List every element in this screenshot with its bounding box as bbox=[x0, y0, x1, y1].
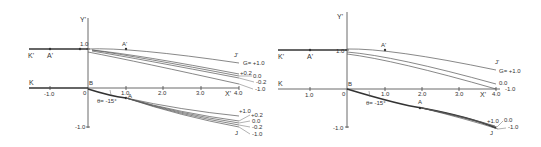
lower-g-label-minus1: -1.0 bbox=[508, 124, 519, 130]
upper-g-label-minus02: -0.2 bbox=[256, 79, 267, 85]
label-a-prime: A' bbox=[47, 52, 53, 59]
label-origin: 0 bbox=[83, 90, 87, 96]
label-a-prime-upper: A' bbox=[122, 41, 127, 47]
y-tick-label-minus-1: -1.0 bbox=[333, 125, 344, 131]
upper-g-label-plus1: G= +1.0 bbox=[499, 68, 521, 74]
x-tick-label-4: 4.0 bbox=[234, 90, 243, 96]
y-tick-label-minus-1: -1.0 bbox=[75, 124, 86, 130]
marker-a-prime-left bbox=[49, 48, 51, 50]
upper-g-label-plus1: G= +1.0 bbox=[243, 60, 265, 66]
x-tick-label-2: 2.0 bbox=[158, 90, 167, 96]
label-k-prime: K' bbox=[28, 52, 34, 59]
upper-leader-lines bbox=[239, 76, 254, 89]
label-a-lower: A bbox=[418, 99, 422, 105]
lower-g-label-plus1: +1.0 bbox=[239, 108, 252, 114]
label-b: B bbox=[348, 81, 352, 87]
x-tick-label-3: 3.0 bbox=[196, 90, 205, 96]
label-b: B bbox=[89, 80, 93, 86]
label-k-prime: K' bbox=[278, 53, 284, 60]
y-tick-label-1: 1.0 bbox=[336, 48, 345, 54]
upper-curve-g-plus1 bbox=[347, 49, 496, 70]
lower-g-label-0: 0.0 bbox=[504, 117, 513, 123]
lower-g-label-minus1: -1.0 bbox=[252, 131, 263, 137]
label-a-prime: A' bbox=[307, 53, 313, 60]
upper-curve-g-minus02 bbox=[92, 51, 239, 78]
x-tick-label-4: 4.0 bbox=[492, 91, 501, 97]
label-j-prime: J' bbox=[234, 52, 238, 58]
lower-g-label-minus02: -0.2 bbox=[252, 124, 263, 130]
x-tick-label-3: 3.0 bbox=[455, 91, 464, 97]
x-tick-label-minus1: -1.0 bbox=[44, 91, 55, 97]
label-a-lower: A bbox=[128, 93, 132, 99]
x-tick-label-left-1: 1.0 bbox=[305, 92, 314, 98]
upper-curve-g-0 bbox=[92, 50, 239, 76]
right-panel: Y' 1.0 -1.0 K B 0 1.0 1.0 2.0 3.0 4.0 X'… bbox=[278, 12, 521, 136]
x-tick-label-2: 2.0 bbox=[418, 91, 427, 97]
jet-trajectory-figure: Y' 1.0 -1.0 K B 0 -1.0 1.0 2.0 3.0 4.0 X… bbox=[0, 0, 541, 147]
upper-g-label-minus1: -1.0 bbox=[505, 86, 516, 92]
label-k: K bbox=[278, 80, 283, 87]
label-j-lower: J bbox=[235, 130, 238, 136]
lower-g-label-plus1: +1.0 bbox=[487, 118, 500, 124]
upper-g-label-plus02: +0.2 bbox=[240, 70, 253, 76]
y-axis-label: Y' bbox=[337, 13, 343, 20]
label-a-prime-upper: A' bbox=[381, 42, 386, 48]
theta-label: θ= -15° bbox=[97, 98, 117, 104]
label-k: K bbox=[29, 79, 34, 86]
theta-label: θ= -15° bbox=[366, 100, 386, 106]
label-j-lower: J bbox=[490, 130, 493, 136]
left-panel: Y' 1.0 -1.0 K B 0 -1.0 1.0 2.0 3.0 4.0 X… bbox=[28, 16, 267, 137]
y-axis-label: Y' bbox=[80, 16, 86, 23]
upper-curve-g-0 bbox=[347, 52, 496, 84]
label-origin: 0 bbox=[342, 91, 346, 97]
marker-upper-near-axis bbox=[79, 48, 81, 50]
x-axis-label: X' bbox=[480, 91, 486, 98]
upper-g-label-minus1: -1.0 bbox=[255, 86, 266, 92]
x-tick-label-1: 1.0 bbox=[381, 91, 390, 97]
upper-curve-g-plus1 bbox=[88, 49, 239, 63]
theta-arc bbox=[110, 90, 111, 95]
y-tick-label-1: 1.0 bbox=[80, 41, 89, 47]
marker-a-lower bbox=[419, 107, 421, 109]
marker-a-prime-left bbox=[309, 49, 311, 51]
x-axis-label: X' bbox=[225, 90, 231, 97]
upper-curve-g-minus1 bbox=[347, 54, 496, 89]
label-j-prime: J' bbox=[495, 59, 499, 65]
lower-leader-lines bbox=[239, 115, 250, 134]
upper-curve-g-minus1 bbox=[88, 52, 239, 84]
